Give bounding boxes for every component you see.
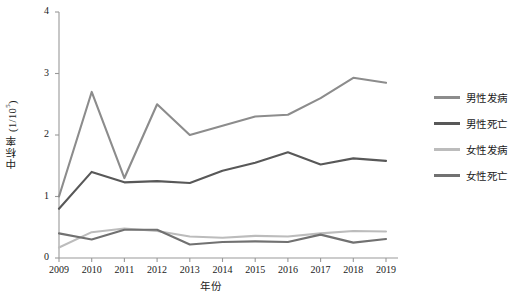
x-tick-label: 2019: [368, 264, 404, 275]
legend-line-swatch: [434, 148, 460, 151]
chart-legend: 男性发病男性死亡女性发病女性死亡: [434, 84, 507, 188]
x-tick-label: 2017: [303, 264, 339, 275]
legend-label: 女性发病: [466, 142, 507, 157]
legend-label: 女性死亡: [466, 168, 507, 183]
y-axis-title: 中标率 (1/105): [4, 100, 22, 169]
legend-line-swatch: [434, 122, 460, 125]
legend-label: 男性发病: [466, 90, 507, 105]
x-tick-label: 2013: [172, 264, 208, 275]
series-line-0: [59, 78, 386, 197]
x-tick-label: 2010: [74, 264, 110, 275]
y-tick-label: 4: [33, 5, 49, 16]
x-tick-label: 2012: [139, 264, 175, 275]
y-axis-title-tail: ): [7, 100, 18, 104]
x-tick-label: 2015: [237, 264, 273, 275]
x-tick-label: 2009: [41, 264, 77, 275]
y-tick-label: 3: [33, 67, 49, 78]
legend-label: 男性死亡: [466, 116, 507, 131]
series-line-1: [59, 152, 386, 209]
y-tick-label: 0: [33, 251, 49, 262]
x-tick-label: 2018: [335, 264, 371, 275]
legend-item-0[interactable]: 男性发病: [434, 84, 507, 110]
y-axis-title-exponent: 5: [4, 104, 12, 108]
x-axis-title: 年份: [200, 278, 221, 293]
x-tick-label: 2011: [106, 264, 142, 275]
legend-line-swatch: [434, 96, 460, 99]
legend-item-3[interactable]: 女性死亡: [434, 162, 507, 188]
x-tick-label: 2016: [270, 264, 306, 275]
legend-item-1[interactable]: 男性死亡: [434, 110, 507, 136]
y-tick-label: 2: [33, 128, 49, 139]
y-axis-title-text: 中标率 (1/10: [7, 108, 18, 169]
legend-line-swatch: [434, 174, 460, 177]
chart-figure: 中标率 (1/105) 年份 2009201020112012201320142…: [0, 0, 532, 302]
x-tick-label: 2014: [205, 264, 241, 275]
y-tick-label: 1: [33, 190, 49, 201]
legend-item-2[interactable]: 女性发病: [434, 136, 507, 162]
